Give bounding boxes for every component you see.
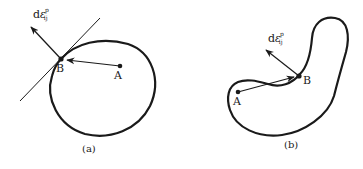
point-A-dot	[118, 64, 123, 69]
convex-yield-surface	[50, 41, 155, 136]
normal-vector-arrow	[266, 50, 299, 76]
normal-vector-arrow	[31, 27, 61, 59]
nonconvex-yield-surface	[228, 18, 348, 136]
label-subscript: ij	[44, 14, 48, 21]
label-superscript: p	[280, 30, 284, 37]
strain-increment-label-a: dεpij	[33, 9, 48, 20]
label-subscript: ij	[279, 38, 283, 45]
panel-a	[20, 18, 155, 136]
label-superscript: p	[45, 6, 49, 13]
point-A-dot	[236, 90, 241, 95]
label-d: d	[33, 8, 40, 21]
point-B-label-b: B	[303, 75, 311, 86]
caption-b: (b)	[284, 140, 298, 150]
point-B-label-a: B	[56, 63, 64, 74]
point-A-label-a: A	[114, 70, 122, 81]
label-d: d	[268, 32, 275, 45]
point-B-dot	[296, 73, 301, 78]
point-B-dot	[58, 56, 63, 61]
strain-increment-label-b: dεpij	[268, 33, 283, 44]
point-A-label-b: A	[233, 96, 241, 107]
caption-a: (a)	[82, 144, 96, 154]
vector-A-to-B	[67, 60, 120, 66]
panel-b	[228, 18, 348, 136]
